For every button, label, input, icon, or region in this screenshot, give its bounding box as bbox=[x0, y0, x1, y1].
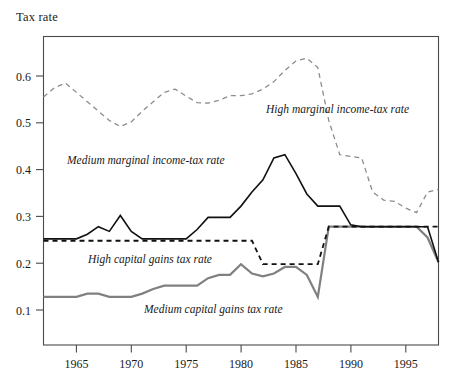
y-tick-label: 0.5 bbox=[16, 116, 31, 130]
label-medium-capital-gains-tax-rate: Medium capital gains tax rate bbox=[143, 303, 283, 316]
series-high-marginal-income-tax-rate bbox=[44, 58, 439, 212]
x-tick-label: 1990 bbox=[339, 357, 363, 371]
x-axis-labels: 1965 1970 1975 1980 1985 1990 1995 bbox=[64, 357, 417, 371]
x-tick-label: 1985 bbox=[284, 357, 308, 371]
x-tick-label: 1980 bbox=[229, 357, 253, 371]
label-high-marginal-income-tax-rate: High marginal income-tax rate bbox=[265, 103, 409, 116]
x-tick-label: 1975 bbox=[174, 357, 198, 371]
y-tick-label: 0.2 bbox=[16, 257, 31, 271]
label-high-capital-gains-tax-rate: High capital gains tax rate bbox=[87, 253, 212, 266]
x-tick-label: 1970 bbox=[119, 357, 143, 371]
y-axis-ticks bbox=[36, 76, 44, 310]
plot-frame bbox=[44, 37, 439, 346]
y-tick-label: 0.3 bbox=[16, 210, 31, 224]
x-axis-ticks bbox=[76, 345, 405, 353]
series-medium-marginal-income-tax-rate bbox=[44, 155, 439, 263]
y-axis-labels: 0.6 0.5 0.4 0.3 0.2 0.1 bbox=[16, 70, 31, 318]
y-tick-label: 0.4 bbox=[16, 163, 31, 177]
y-tick-label: 0.1 bbox=[16, 304, 31, 318]
tax-rate-chart-figure: Tax rate 0.6 0.5 0.4 0.3 0.2 0.1 bbox=[0, 0, 461, 390]
label-medium-marginal-income-tax-rate: Medium marginal income-tax rate bbox=[66, 154, 225, 167]
chart-plot-area: 0.6 0.5 0.4 0.3 0.2 0.1 1965 1970 1975 1… bbox=[0, 0, 461, 390]
x-tick-label: 1995 bbox=[394, 357, 418, 371]
y-tick-label: 0.6 bbox=[16, 70, 31, 84]
x-tick-label: 1965 bbox=[64, 357, 88, 371]
